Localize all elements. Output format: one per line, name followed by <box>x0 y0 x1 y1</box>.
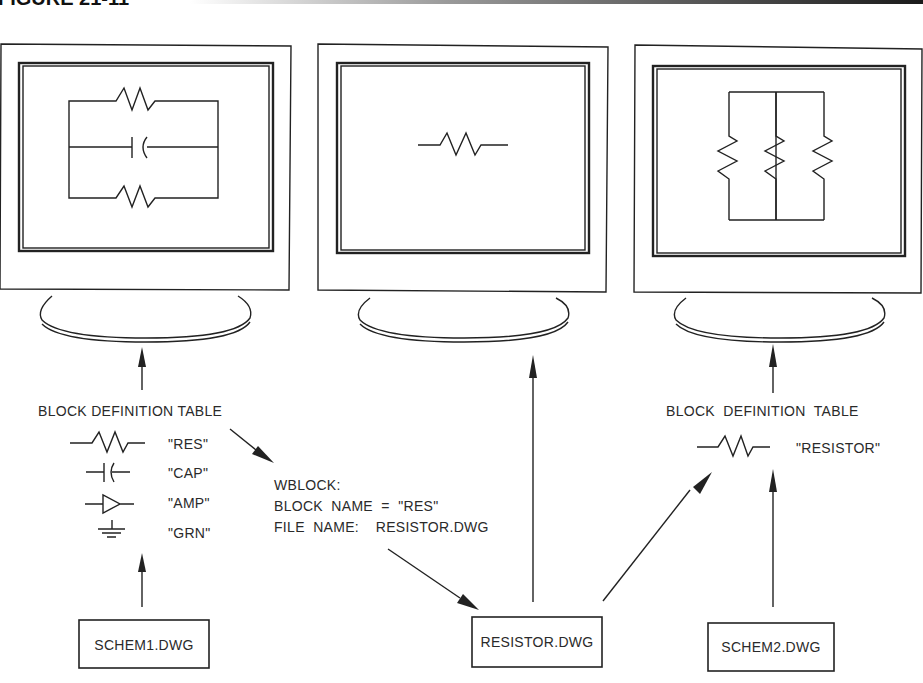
figure-label: FIGURE 21-11 <box>0 0 129 9</box>
wblock-command: WBLOCK: BLOCK NAME = "RES" FILE NAME: RE… <box>274 477 489 535</box>
monitor-stand <box>40 296 250 342</box>
capacitor-symbol-icon <box>86 463 130 482</box>
arrow-resistor-file-to-right-table <box>603 472 712 601</box>
header-bar <box>190 0 923 4</box>
amplifier-symbol-icon <box>85 495 134 513</box>
monitor-stand <box>358 298 568 342</box>
file-schem1: SCHEM1.DWG <box>79 620 209 668</box>
wblock-label: WBLOCK: <box>274 477 341 493</box>
block-name-cap: "CAP" <box>168 465 208 481</box>
screen-three-resistors <box>718 92 832 220</box>
arrow-schem2-to-right-table <box>769 469 777 607</box>
block-name-amp: "AMP" <box>168 495 210 511</box>
screen-resistor-symbol <box>418 133 508 155</box>
block-name-resistor: "RESISTOR" <box>796 440 880 456</box>
arrow-resistor-file-to-monitor2 <box>529 355 537 602</box>
arrow-right-table-to-monitor3 <box>769 344 777 393</box>
arrows <box>138 344 777 610</box>
left-block-definition-table: BLOCK DEFINITION TABLE "RES" "CAP" "AMP"… <box>38 403 222 541</box>
left-table-title: BLOCK DEFINITION TABLE <box>38 403 222 419</box>
file-schem2-label: SCHEM2.DWG <box>721 639 820 655</box>
resistor-symbol-icon <box>697 436 770 456</box>
right-block-definition-table: BLOCK DEFINITION TABLE "RESISTOR" <box>666 403 880 456</box>
block-name-grn: "GRN" <box>168 525 211 541</box>
monitor-schem1 <box>0 44 291 342</box>
figure-header: FIGURE 21-11 <box>0 0 923 9</box>
arrow-table-to-monitor1 <box>138 347 146 390</box>
wblock-file-name: FILE NAME: RESISTOR.DWG <box>274 519 489 535</box>
wblock-block-name: BLOCK NAME = "RES" <box>274 498 438 514</box>
block-wblock-diagram: FIGURE 21-11 <box>0 0 923 683</box>
ground-symbol-icon <box>98 520 125 537</box>
resistor-symbol-icon <box>70 432 145 452</box>
monitor-resistor <box>318 44 608 342</box>
monitor-schem2 <box>634 45 922 342</box>
file-schem2: SCHEM2.DWG <box>708 623 834 671</box>
monitor-stand <box>674 298 884 342</box>
arrow-res-to-wblock <box>230 429 274 463</box>
block-name-res: "RES" <box>168 436 208 452</box>
arrow-wblock-to-resistor-file <box>388 549 479 610</box>
file-resistor-label: RESISTOR.DWG <box>480 634 593 650</box>
arrow-schem1-to-table <box>138 553 146 607</box>
screen-circuit-parallel <box>69 88 218 207</box>
file-resistor: RESISTOR.DWG <box>472 617 602 667</box>
right-table-title: BLOCK DEFINITION TABLE <box>666 403 859 419</box>
file-schem1-label: SCHEM1.DWG <box>94 637 193 653</box>
